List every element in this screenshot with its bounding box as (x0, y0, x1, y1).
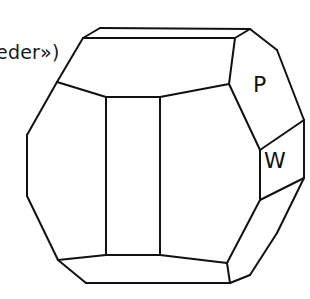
crystal-edge (160, 84, 229, 97)
crystal-edge (58, 260, 86, 283)
crystal-edge (83, 28, 100, 38)
crystal-edge (250, 29, 277, 50)
crystal-edge (235, 29, 250, 38)
crystal-edge (250, 233, 277, 275)
crystal-edge (260, 120, 304, 150)
crystal-edge (277, 178, 304, 233)
face-label-p: P (253, 72, 266, 97)
crystal-edge (229, 38, 235, 84)
crystal-edge (100, 28, 250, 29)
crystal-edge (57, 38, 83, 82)
crystal-edge (27, 82, 57, 135)
crystal-edge (227, 263, 230, 283)
crystal-edge (230, 275, 250, 283)
crystal-edge (58, 255, 106, 260)
crystal-edge (160, 255, 227, 263)
crystal-edge (27, 196, 58, 260)
crystal-edge (227, 200, 260, 263)
crystal-edge (57, 82, 106, 97)
crystal-edge (260, 178, 304, 200)
caption-text: eder») (0, 41, 60, 63)
face-label-w: W (264, 148, 286, 173)
crystal-edge (277, 50, 304, 120)
